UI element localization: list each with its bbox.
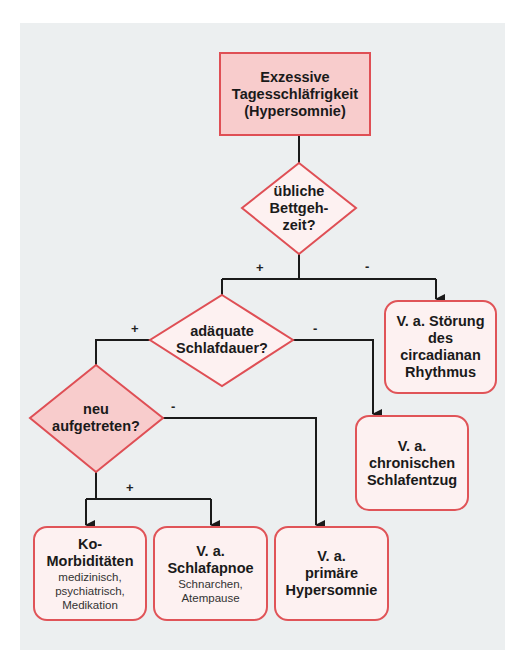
outcome-chronic-line-2: chronischen	[369, 455, 455, 472]
outcome-circadian-line-3: Rhythmus	[405, 364, 476, 381]
outcome-comorbid-title-1: Ko-	[78, 536, 102, 553]
newonset-no-label: -	[171, 399, 175, 414]
decision-bedtime: übliche Bettgeh- zeit?	[249, 180, 349, 236]
outcome-sleep-apnea: V. a. Schlafapnoe Schnarchen, Atempause	[153, 526, 268, 621]
outcome-circadian-line-2: des circadianan	[386, 330, 495, 364]
decision-duration-line-2: Schlafdauer?	[176, 340, 268, 357]
outcome-comorbid-title-2: Morbiditäten	[47, 553, 134, 570]
outcome-apnea-title-1: V. a.	[196, 543, 225, 560]
bedtime-no-label: -	[365, 259, 369, 274]
decision-sleep-duration: adäquate Schlafdauer?	[162, 320, 282, 360]
outcome-primary-line-2: primäre	[305, 565, 358, 582]
outcome-circadian-line-1: V. a. Störung	[396, 313, 484, 330]
outcome-chronic-line-3: Schlafentzug	[367, 472, 457, 489]
outcome-chronic-line-1: V. a.	[398, 438, 427, 455]
outcome-comorbidities: Ko- Morbiditäten medizinisch, psychiatri…	[33, 526, 147, 621]
decision-bedtime-line-3: zeit?	[282, 217, 315, 234]
decision-duration-line-1: adäquate	[190, 323, 254, 340]
outcome-primary-hypersomnia: V. a. primäre Hypersomnie	[274, 526, 389, 621]
decision-new-onset: neu aufgetreten?	[38, 398, 154, 438]
connector-duration-no	[293, 340, 373, 414]
outcome-primary-line-3: Hypersomnie	[286, 582, 378, 599]
decision-bedtime-line-2: Bettgeh-	[270, 200, 329, 217]
decision-newonset-line-2: aufgetreten?	[52, 418, 140, 435]
outcome-comorbid-sub-2: psychiatrisch,	[55, 584, 125, 598]
outcome-chronic-sleep-deprivation: V. a. chronischen Schlafentzug	[355, 415, 469, 511]
start-line-2: Tagesschläfrigkeit	[232, 86, 358, 103]
start-line-1: Exzessive	[260, 69, 329, 86]
start-line-3: (Hypersomnie)	[244, 103, 346, 120]
outcome-apnea-sub-2: Atempause	[181, 591, 239, 605]
connector-duration-yes	[96, 340, 150, 365]
start-node-hypersomnia: Exzessive Tagesschläfrigkeit (Hypersomni…	[219, 52, 371, 136]
outcome-comorbid-sub-3: Medikation	[62, 598, 118, 612]
duration-no-label: -	[313, 321, 317, 336]
bedtime-yes-label: +	[256, 260, 264, 275]
decision-newonset-line-1: neu	[83, 401, 109, 418]
duration-yes-label: +	[131, 321, 139, 336]
outcome-comorbid-sub-1: medizinisch,	[58, 570, 121, 584]
outcome-circadian-rhythm: V. a. Störung des circadianan Rhythmus	[384, 300, 497, 394]
connector-newonset-no	[163, 418, 316, 525]
outcome-apnea-sub-1: Schnarchen,	[178, 577, 243, 591]
newonset-yes-label: +	[126, 480, 134, 495]
outcome-apnea-title-2: Schlafapnoe	[167, 560, 253, 577]
decision-bedtime-line-1: übliche	[274, 183, 325, 200]
outcome-primary-line-1: V. a.	[317, 548, 346, 565]
